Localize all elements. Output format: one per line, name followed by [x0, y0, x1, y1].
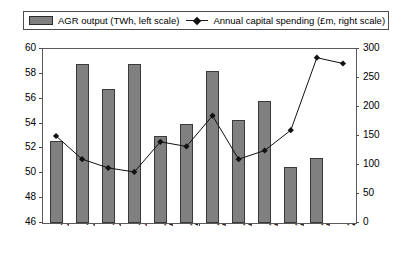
- left-axis-tick-label-58: 58: [10, 68, 36, 78]
- left-axis-tick-label-56: 56: [10, 93, 36, 103]
- chart-container: AGR output (TWh, left scale) Annual capi…: [0, 0, 412, 270]
- line-marker-2006: [314, 55, 320, 61]
- line-diamond-icon: [186, 16, 208, 25]
- legend-label-agr-output: AGR output (TWh, left scale): [58, 16, 179, 26]
- legend-entry-capital-spending: Annual capital spending (£m, right scale…: [186, 16, 385, 26]
- right-axis-tick-label-100: 100: [363, 159, 393, 169]
- line-marker-2007F: [340, 60, 346, 66]
- capital-spending-line: [56, 58, 343, 172]
- chart-legend: AGR output (TWh, left scale) Annual capi…: [23, 11, 389, 30]
- legend-label-capital-spending: Annual capital spending (£m, right scale…: [213, 16, 385, 26]
- right-axis-tick-label-300: 300: [363, 43, 393, 53]
- left-axis-tick-label-52: 52: [10, 142, 36, 152]
- bar-swatch-icon: [29, 16, 53, 25]
- right-axis-tick-label-200: 200: [363, 101, 393, 111]
- left-axis-tick-label-60: 60: [10, 43, 36, 53]
- right-axis-tick-label-250: 250: [363, 72, 393, 82]
- legend-entry-agr-output: AGR output (TWh, left scale): [29, 16, 179, 26]
- left-axis-tick-label-50: 50: [10, 167, 36, 177]
- line-series-layer: [43, 49, 356, 223]
- plot-area: [42, 48, 357, 224]
- right-axis-tick-label-50: 50: [363, 188, 393, 198]
- left-axis-tick-label-54: 54: [10, 118, 36, 128]
- left-axis-tick-label-46: 46: [10, 217, 36, 227]
- right-axis-tick-label-0: 0: [363, 217, 393, 227]
- left-axis-tick-label-48: 48: [10, 192, 36, 202]
- line-marker-2003: [236, 156, 242, 162]
- right-axis-tick-label-150: 150: [363, 130, 393, 140]
- line-marker-1998: [105, 165, 111, 171]
